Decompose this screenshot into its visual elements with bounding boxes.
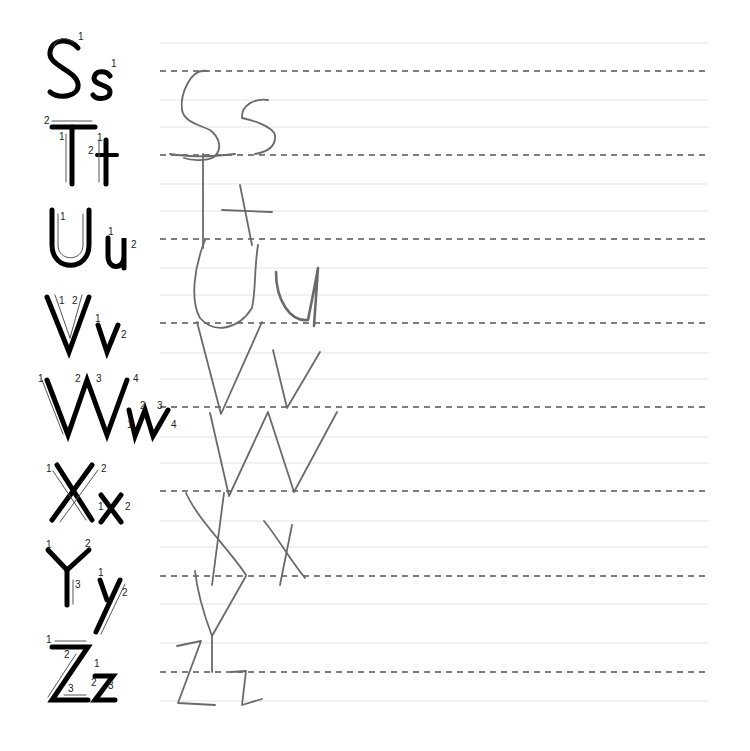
stroke-number: 1: [46, 634, 52, 645]
hand-W: [210, 412, 337, 496]
model-Ww: 1 2 3 4 1 2 3 4: [38, 373, 177, 436]
model-Tt: 2 1 1 2: [44, 115, 117, 184]
stroke-number: 3: [75, 579, 81, 590]
hand-x1: [264, 521, 305, 578]
stroke-number: 2: [91, 677, 97, 688]
rule-lines: [160, 43, 708, 701]
stroke-number: 1: [38, 373, 44, 384]
stroke-number: 2: [72, 295, 78, 306]
stroke-number: 1: [111, 58, 117, 69]
model-Xx: 1 2 1 2: [46, 463, 131, 522]
model-Uu: 1 1 2: [52, 210, 137, 268]
stroke-number: 2: [121, 329, 127, 340]
hand-X2: [212, 493, 224, 585]
model-Ss: 1 1: [50, 31, 117, 98]
stroke-number: 1: [78, 31, 84, 42]
handwriting-worksheet: 1 1 2 1 1 2 1 1 2: [0, 0, 750, 751]
model-Zz: 1 2 3 1 2 3: [46, 634, 115, 700]
stroke-number: 1: [98, 567, 104, 578]
stroke-number: 2: [101, 463, 107, 474]
stroke-number: 2: [140, 400, 146, 411]
model-letters: 1 1 2 1 1 2 1 1 2: [38, 31, 177, 700]
stroke-number: 1: [98, 501, 104, 512]
stroke-number: 1: [127, 419, 133, 430]
stroke-number: 2: [64, 649, 70, 660]
stroke-number: 1: [59, 131, 65, 142]
handwritten-letters: [170, 71, 337, 705]
hand-S: [182, 71, 219, 160]
stroke-number: 2: [88, 145, 94, 156]
hand-V: [197, 322, 262, 414]
stroke-number: 2: [131, 239, 137, 250]
stroke-number: 4: [171, 419, 177, 430]
stroke-number: 1: [97, 132, 103, 143]
stroke-number: 1: [46, 463, 52, 474]
stroke-number: 4: [133, 373, 139, 384]
stroke-number: 2: [122, 587, 128, 598]
stroke-number: 3: [96, 373, 102, 384]
hand-t-bar: [222, 210, 272, 212]
stroke-number: 3: [68, 683, 74, 694]
stroke-number: 1: [46, 539, 52, 550]
stroke-number: 3: [157, 400, 163, 411]
hand-Z: [177, 641, 215, 705]
hand-u: [276, 268, 318, 326]
hand-U: [194, 240, 258, 328]
model-Vv: 1 2 1 2: [47, 295, 127, 352]
stroke-number: 2: [75, 373, 81, 384]
hand-t-stem: [240, 185, 252, 245]
stroke-number: 1: [60, 211, 66, 222]
hand-Y: [195, 571, 246, 672]
stroke-number: 2: [125, 501, 131, 512]
stroke-number: 1: [59, 295, 65, 306]
stroke-number: 2: [85, 538, 91, 549]
stroke-number: 1: [95, 313, 101, 324]
hand-X1: [186, 493, 246, 575]
model-Yy: 1 2 3 1 2: [46, 538, 128, 634]
stroke-number: 3: [108, 680, 114, 691]
hand-z: [231, 671, 262, 705]
stroke-number: 1: [94, 658, 100, 669]
stroke-number: 1: [108, 226, 114, 237]
stroke-number: 2: [44, 115, 50, 126]
